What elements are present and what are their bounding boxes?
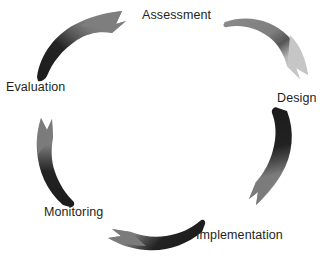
arrow-monitoring-to-evaluation — [37, 118, 75, 207]
arrow-design-to-implementation — [249, 107, 292, 205]
stage-label-assessment: Assessment — [142, 8, 211, 22]
arrow-assessment-to-design — [224, 18, 308, 79]
cycle-diagram: Assessment Design Implementation Monitor… — [0, 0, 328, 271]
stage-label-evaluation: Evaluation — [6, 80, 65, 94]
arrow-evaluation-to-assessment — [37, 11, 126, 81]
stage-label-implementation: Implementation — [196, 228, 283, 242]
stage-label-design: Design — [277, 91, 317, 105]
stage-label-monitoring: Monitoring — [44, 205, 103, 219]
arrow-implementation-to-monitoring — [108, 220, 205, 251]
